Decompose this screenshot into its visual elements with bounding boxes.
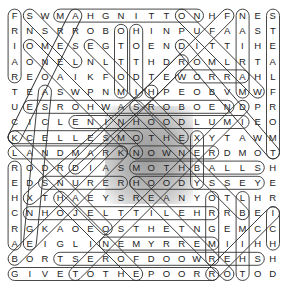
word-marker (203, 204, 282, 283)
word-marker (236, 192, 249, 281)
word-marker (8, 146, 127, 159)
word-marker (21, 6, 85, 70)
word-marker (66, 98, 252, 284)
word-marker (8, 268, 219, 281)
word-marker (99, 237, 218, 250)
word-marker (69, 116, 249, 129)
word-marker (23, 84, 52, 250)
word-marker (8, 161, 21, 250)
word-marker (191, 131, 204, 190)
word-marker (5, 143, 130, 268)
word-search-puzzle: FSWMAHGNITTONHFNESRNSRROBOHINPUFAASTIOME… (7, 8, 280, 281)
word-marker (173, 6, 267, 100)
word-marker (173, 37, 283, 162)
word-marker (23, 100, 234, 113)
word-marker (54, 9, 204, 22)
word-marker (8, 9, 21, 83)
word-marker (127, 174, 237, 284)
found-word-markers (7, 8, 280, 281)
word-marker (236, 9, 249, 98)
word-marker (5, 128, 115, 238)
word-marker (6, 7, 84, 146)
word-marker (130, 161, 265, 174)
word-marker (51, 189, 145, 283)
word-marker (267, 207, 280, 250)
word-marker (142, 6, 236, 100)
word-marker (23, 207, 218, 220)
word-marker (54, 252, 265, 265)
word-marker (115, 24, 128, 98)
